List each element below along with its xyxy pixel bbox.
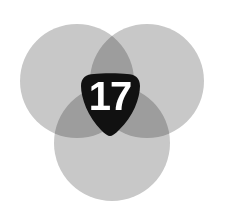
badge-number-text: 17 (89, 74, 132, 118)
venn-diagram: 17 (0, 0, 227, 220)
figure-canvas: 17 (0, 0, 227, 220)
